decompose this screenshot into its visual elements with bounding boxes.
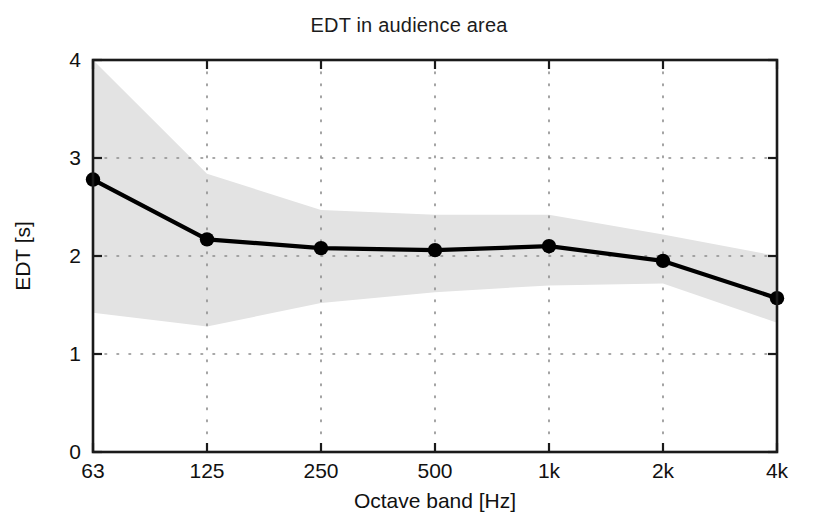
- data-point-marker: [314, 241, 328, 255]
- x-tick-labels: 631252505001k2k4k: [81, 459, 788, 482]
- edt-line-chart: 631252505001k2k4k 01234 Octave band [Hz]…: [0, 0, 818, 522]
- data-point-marker: [428, 243, 442, 257]
- y-tick-label: 1: [69, 342, 81, 365]
- y-tick-label: 4: [69, 48, 81, 71]
- data-point-marker: [656, 254, 670, 268]
- chart-figure: EDT in audience area 631252505001k2k4k 0…: [0, 0, 818, 522]
- x-tick-label: 500: [417, 459, 452, 482]
- x-tick-label: 4k: [766, 459, 789, 482]
- data-point-marker: [200, 232, 214, 246]
- x-tick-label: 125: [189, 459, 224, 482]
- y-tick-label: 0: [69, 440, 81, 463]
- y-tick-label: 3: [69, 146, 81, 169]
- x-tick-label: 63: [81, 459, 104, 482]
- x-tick-label: 2k: [652, 459, 675, 482]
- y-tick-label: 2: [69, 244, 81, 267]
- data-point-marker: [542, 239, 556, 253]
- y-tick-labels: 01234: [69, 48, 81, 463]
- y-axis-title: EDT [s]: [11, 221, 34, 291]
- x-tick-label: 250: [303, 459, 338, 482]
- x-axis-title: Octave band [Hz]: [354, 489, 516, 512]
- x-tick-label: 1k: [538, 459, 561, 482]
